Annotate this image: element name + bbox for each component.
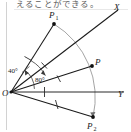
label-y: Y	[118, 89, 124, 99]
label-p1: P	[48, 10, 55, 20]
label-angle-40: 40°	[8, 67, 18, 75]
angle-arc-80-arrowhead-icon	[25, 70, 29, 75]
tick-mark-op2	[56, 100, 59, 109]
point-dot-origin	[9, 90, 12, 93]
construction-arc	[54, 24, 95, 117]
tick-mark-op1	[25, 57, 32, 61]
ray-ox	[11, 10, 118, 92]
label-x: X	[113, 2, 120, 12]
segment-op1	[11, 24, 54, 92]
segment-op2	[11, 92, 93, 117]
segment-op	[11, 66, 92, 92]
point-dot-p	[90, 64, 94, 68]
label-p2: P	[86, 121, 93, 131]
angle-arc-40-arrowhead-icon	[41, 70, 46, 75]
geometry-figure: えることができる。	[0, 0, 131, 132]
label-p1-subscript: 1	[56, 15, 59, 21]
label-angle-80: 80°	[35, 76, 45, 84]
point-dot-p1	[52, 22, 56, 26]
figure-canvas: P 1 P P 2 X Y O 40° 80°	[0, 0, 131, 132]
label-p: P	[94, 57, 101, 67]
label-origin: O	[2, 88, 9, 98]
point-dot-p2	[91, 115, 95, 119]
label-p2-subscript: 2	[94, 126, 97, 132]
